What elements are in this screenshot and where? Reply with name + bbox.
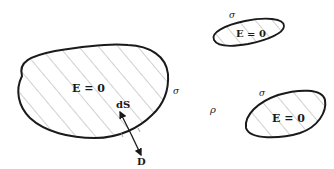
surface-tick-right <box>138 128 140 132</box>
large-conductor-field-label: E = 0 <box>72 82 105 95</box>
d-arrow-icon <box>131 134 141 155</box>
small-top-sigma-label: σ <box>229 10 236 20</box>
large-conductor: E = 0 σ <box>18 44 180 138</box>
d-label: D <box>137 156 146 167</box>
small-top-field-label: E = 0 <box>236 28 266 39</box>
small-bottom-conductor: E = 0 σ <box>246 88 325 137</box>
small-top-conductor: E = 0 σ <box>213 10 284 46</box>
large-conductor-sigma-label: σ <box>173 86 180 96</box>
ds-label: dS <box>116 99 130 110</box>
conductor-diagram: E = 0 σ dS D E = 0 σ ρ E = 0 σ <box>0 0 334 169</box>
small-bottom-sigma-label: σ <box>259 88 266 98</box>
rho-label: ρ <box>209 104 216 115</box>
small-bottom-field-label: E = 0 <box>272 112 305 125</box>
